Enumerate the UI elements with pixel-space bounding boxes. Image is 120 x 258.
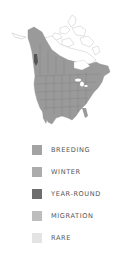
legend-item-winter: WINTER	[32, 161, 101, 183]
legend-label: MIGRATION	[51, 212, 94, 220]
range-map	[0, 0, 120, 130]
alaska-peninsula	[12, 33, 26, 39]
florida	[82, 108, 88, 118]
legend-label: YEAR-ROUND	[51, 190, 101, 198]
legend-item-migration: MIGRATION	[32, 205, 101, 227]
legend-label: WINTER	[51, 168, 81, 176]
legend-item-year-round: YEAR-ROUND	[32, 183, 101, 205]
legend-item-breeding: BREEDING	[32, 139, 101, 161]
winter-swatch	[32, 167, 42, 177]
year-round-swatch	[32, 189, 42, 199]
legend: BREEDING WINTER YEAR-ROUND MIGRATION RAR…	[32, 139, 101, 249]
migration-swatch	[32, 211, 42, 221]
legend-label: RARE	[51, 234, 71, 242]
rare-swatch	[32, 233, 42, 243]
legend-item-rare: RARE	[32, 227, 101, 249]
breeding-swatch	[32, 145, 42, 155]
legend-label: BREEDING	[51, 146, 90, 154]
